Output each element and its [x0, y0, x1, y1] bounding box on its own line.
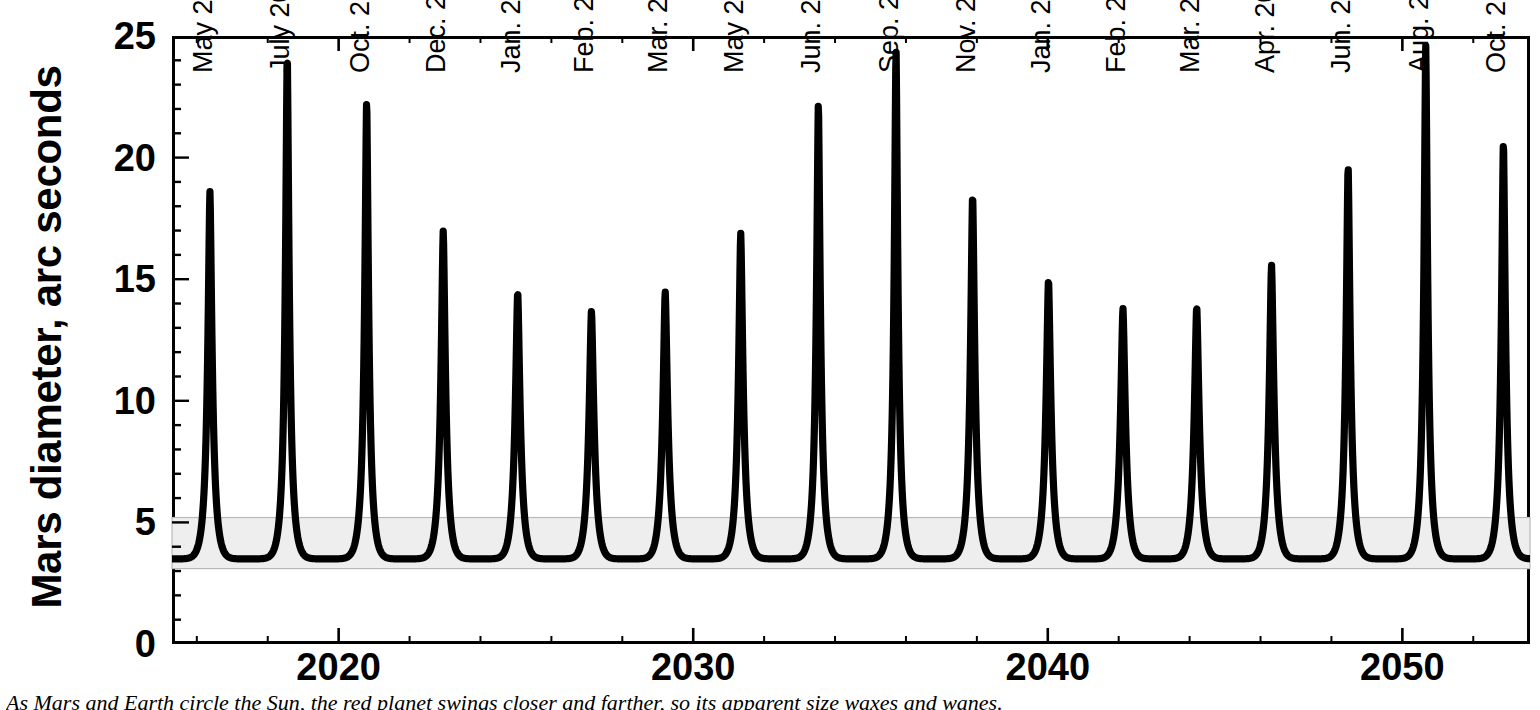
opposition-label-nov-2037: Nov. 2037 — [953, 0, 980, 73]
figure-caption: As Mars and Earth circle the Sun, the re… — [6, 690, 1536, 710]
x-tick-label-2020: 2020 — [296, 648, 381, 686]
x-tick-label-2050: 2050 — [1360, 648, 1445, 686]
opposition-label-feb-2042: Feb. 2042 — [1103, 0, 1130, 73]
opposition-label-feb-2027: Feb. 2027 — [571, 0, 598, 73]
opposition-label-oct-2052: Oct. 2052 — [1483, 0, 1510, 73]
mars-diameter-chart: Mars diameter, arc seconds 2520151050 20… — [0, 0, 1540, 710]
opposition-label-aug-2050: Aug. 2050 — [1406, 0, 1433, 73]
opposition-label-jun-2048: Jun. 2048 — [1328, 0, 1355, 73]
opposition-label-sep-2035: Sep. 2035 — [876, 0, 903, 73]
x-tick-label-2040: 2040 — [1006, 648, 1091, 686]
opposition-label-may-2016: May 2016 — [190, 0, 217, 73]
opposition-label-jan-2025: Jan. 2025 — [498, 0, 525, 73]
opposition-label-mar-2044: Mar. 2044 — [1177, 0, 1204, 73]
opposition-label-jun-2033: Jun. 2033 — [798, 0, 825, 73]
opposition-label-apr-2046: Apr. 2046 — [1252, 0, 1279, 73]
opposition-label-jan-2040: Jan. 2040 — [1028, 0, 1055, 73]
x-tick-label-2030: 2030 — [651, 648, 736, 686]
mars-diameter-curve — [172, 36, 1530, 644]
plot-area: May 2016July 2018Oct. 2020Dec. 2022Jan. … — [172, 36, 1530, 644]
opposition-label-oct-2020: Oct. 2020 — [347, 0, 374, 73]
opposition-label-may-2031: May 2031 — [721, 0, 748, 73]
opposition-label-mar-2029: Mar. 2029 — [645, 0, 672, 73]
opposition-label-july-2018: July 2018 — [267, 0, 294, 73]
opposition-label-dec-2022: Dec. 2022 — [423, 0, 450, 73]
